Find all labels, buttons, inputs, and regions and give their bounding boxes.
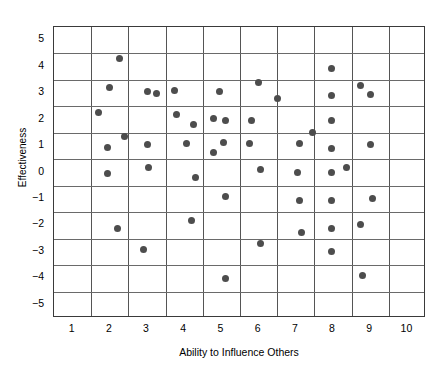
gridline-vertical bbox=[240, 27, 241, 316]
y-tick-label: 1 bbox=[14, 138, 44, 150]
data-point bbox=[173, 111, 180, 118]
gridline-horizontal bbox=[54, 133, 424, 134]
gridline-vertical bbox=[203, 27, 204, 316]
scatter-plot-figure: Effectiveness 12345678910 543210−1−2−3−4… bbox=[0, 0, 442, 375]
data-point bbox=[328, 145, 335, 152]
data-point bbox=[246, 140, 253, 147]
x-tick-label: 4 bbox=[168, 322, 198, 334]
data-point bbox=[296, 197, 303, 204]
gridline-horizontal bbox=[54, 186, 424, 187]
data-point bbox=[104, 170, 111, 177]
plot-area bbox=[53, 26, 425, 317]
data-point bbox=[274, 95, 281, 102]
x-tick-label: 10 bbox=[391, 322, 421, 334]
gridline-horizontal bbox=[54, 292, 424, 293]
y-tick-label: −5 bbox=[14, 297, 44, 309]
gridline-horizontal bbox=[54, 106, 424, 107]
data-point bbox=[144, 141, 151, 148]
gridline-vertical bbox=[128, 27, 129, 316]
data-point bbox=[369, 195, 376, 202]
data-point bbox=[171, 87, 178, 94]
data-point bbox=[140, 246, 147, 253]
data-point bbox=[210, 149, 217, 156]
data-point bbox=[294, 169, 301, 176]
data-point bbox=[357, 221, 364, 228]
data-point bbox=[144, 88, 151, 95]
data-point bbox=[367, 91, 374, 98]
data-point bbox=[114, 225, 121, 232]
gridline-horizontal bbox=[54, 159, 424, 160]
data-point bbox=[190, 121, 197, 128]
data-point bbox=[257, 240, 264, 247]
data-point bbox=[328, 169, 335, 176]
y-tick-label: −2 bbox=[14, 217, 44, 229]
data-point bbox=[296, 140, 303, 147]
x-tick-label: 9 bbox=[354, 322, 384, 334]
data-point bbox=[357, 82, 364, 89]
gridline-vertical bbox=[389, 27, 390, 316]
data-point bbox=[343, 164, 350, 171]
data-point bbox=[359, 272, 366, 279]
x-axis-title: Ability to Influence Others bbox=[53, 346, 425, 358]
data-point bbox=[298, 229, 305, 236]
data-point bbox=[222, 275, 229, 282]
data-point bbox=[222, 193, 229, 200]
data-point bbox=[328, 225, 335, 232]
data-point bbox=[328, 248, 335, 255]
x-tick-label: 2 bbox=[94, 322, 124, 334]
data-point bbox=[328, 197, 335, 204]
data-point bbox=[220, 139, 227, 146]
y-tick-label: 3 bbox=[14, 85, 44, 97]
data-point bbox=[216, 88, 223, 95]
gridline-horizontal bbox=[54, 53, 424, 54]
data-point bbox=[222, 117, 229, 124]
x-tick-label: 3 bbox=[131, 322, 161, 334]
data-point bbox=[248, 117, 255, 124]
data-point bbox=[192, 174, 199, 181]
data-point bbox=[328, 65, 335, 72]
gridline-vertical bbox=[314, 27, 315, 316]
gridline-vertical bbox=[277, 27, 278, 316]
data-point bbox=[210, 115, 217, 122]
x-tick-label: 1 bbox=[57, 322, 87, 334]
gridline-vertical bbox=[91, 27, 92, 316]
y-tick-label: 5 bbox=[14, 32, 44, 44]
gridline-vertical bbox=[352, 27, 353, 316]
gridline-vertical bbox=[166, 27, 167, 316]
gridline-horizontal bbox=[54, 265, 424, 266]
x-tick-label: 6 bbox=[243, 322, 273, 334]
x-tick-label: 8 bbox=[317, 322, 347, 334]
gridline-horizontal bbox=[54, 212, 424, 213]
data-point bbox=[153, 90, 160, 97]
y-tick-label: 4 bbox=[14, 59, 44, 71]
x-tick-label: 7 bbox=[280, 322, 310, 334]
data-point bbox=[183, 140, 190, 147]
y-tick-label: −1 bbox=[14, 191, 44, 203]
data-point bbox=[104, 144, 111, 151]
data-point bbox=[257, 166, 264, 173]
data-point bbox=[367, 141, 374, 148]
data-point bbox=[145, 164, 152, 171]
data-point bbox=[121, 133, 128, 140]
data-point bbox=[116, 55, 123, 62]
data-point bbox=[328, 92, 335, 99]
x-tick-label: 5 bbox=[205, 322, 235, 334]
y-tick-label: −3 bbox=[14, 244, 44, 256]
data-point bbox=[188, 217, 195, 224]
data-point bbox=[95, 109, 102, 116]
y-tick-label: 2 bbox=[14, 112, 44, 124]
gridline-horizontal bbox=[54, 239, 424, 240]
data-point bbox=[328, 117, 335, 124]
gridline-horizontal bbox=[54, 80, 424, 81]
data-point bbox=[255, 79, 262, 86]
y-tick-label: −4 bbox=[14, 270, 44, 282]
y-tick-label: 0 bbox=[14, 165, 44, 177]
data-point bbox=[106, 84, 113, 91]
